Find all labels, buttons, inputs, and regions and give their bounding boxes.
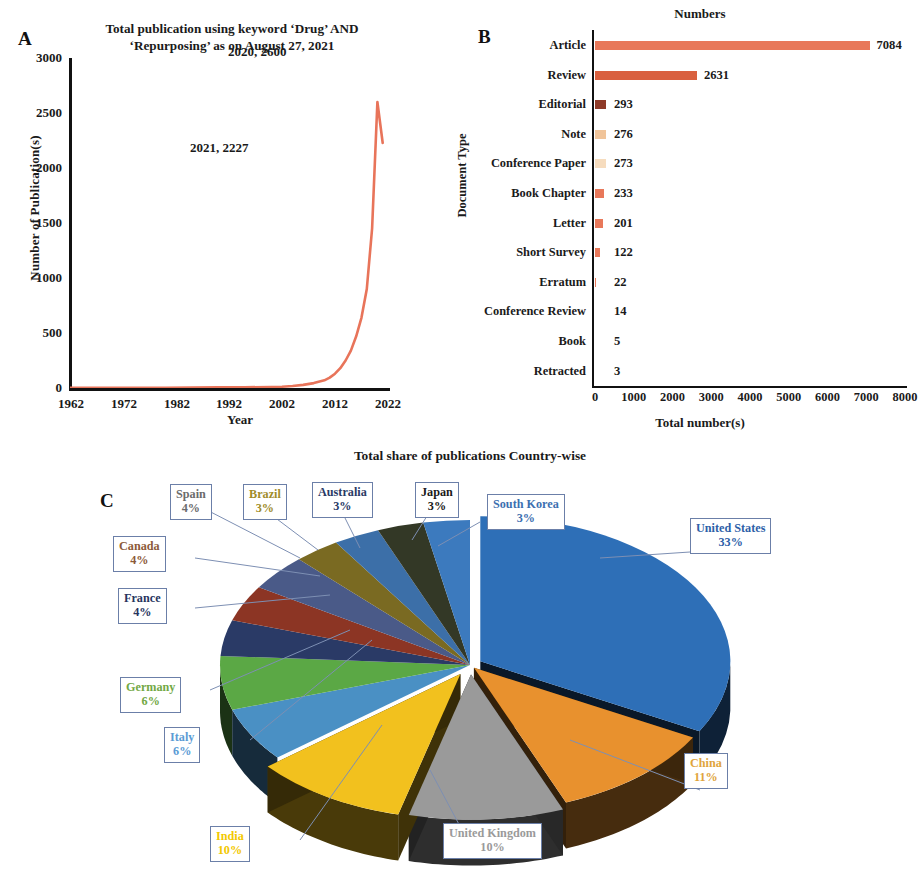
pie-callout-percent: 11% bbox=[690, 770, 722, 784]
panel-b-category-label: Erratum bbox=[440, 269, 586, 295]
panel-a-xtick: 2012 bbox=[307, 396, 363, 412]
panel-b-title: Numbers bbox=[580, 6, 820, 22]
panel-b-bar bbox=[595, 100, 606, 109]
panel-b-bar-row: Note276 bbox=[440, 121, 919, 147]
panel-a-annotation-last: 2021, 2227 bbox=[190, 140, 249, 156]
pie-callout-percent: 3% bbox=[249, 501, 281, 515]
panel-b-category-label: Short Survey bbox=[440, 239, 586, 265]
panel-b-bar bbox=[595, 219, 603, 228]
pie-callout-japan: Japan3% bbox=[415, 482, 459, 518]
panel-b-xtick: 3000 bbox=[689, 390, 733, 405]
pie-callout-percent: 6% bbox=[170, 744, 194, 758]
panel-b-bar-row: Review2631 bbox=[440, 62, 919, 88]
panel-a-xtick: 1992 bbox=[201, 396, 257, 412]
panel-b-category-label: Review bbox=[440, 62, 586, 88]
panel-b-value-label: 122 bbox=[614, 239, 633, 265]
panel-a: A Total publication using keyword ‘Drug’… bbox=[0, 0, 455, 440]
panel-a-x-axis bbox=[69, 388, 390, 391]
panel-b-category-label: Conference Review bbox=[440, 298, 586, 324]
pie-callout-percent: 3% bbox=[493, 511, 559, 525]
panel-b-category-label: Book bbox=[440, 328, 586, 354]
panel-b-value-label: 14 bbox=[614, 298, 627, 324]
panel-a-ytick: 0 bbox=[16, 380, 62, 396]
pie-callout-italy: Italy6% bbox=[164, 727, 200, 763]
pie-3d bbox=[180, 480, 760, 878]
panel-b-value-label: 5 bbox=[614, 328, 620, 354]
panel-b-value-label: 201 bbox=[614, 210, 633, 236]
panel-b-bar-row: Article7084 bbox=[440, 32, 919, 58]
panel-a-xtick: 1972 bbox=[96, 396, 152, 412]
panel-b-bar-row: Editorial293 bbox=[440, 91, 919, 117]
pie-callout-percent: 10% bbox=[449, 840, 536, 854]
panel-b-category-label: Conference Paper bbox=[440, 150, 586, 176]
pie-callout-label: Italy bbox=[170, 730, 194, 744]
pie-callout-label: United Kingdom bbox=[449, 826, 536, 840]
panel-b-value-label: 233 bbox=[614, 180, 633, 206]
panel-b-bar bbox=[595, 71, 697, 80]
pie-callout-label: Japan bbox=[421, 485, 453, 499]
panel-b-value-label: 2631 bbox=[704, 62, 729, 88]
panel-b-bar-row: Retracted3 bbox=[440, 358, 919, 384]
panel-b-bar bbox=[595, 41, 870, 50]
panel-c: C Total share of publications Country-wi… bbox=[0, 440, 919, 878]
figure-root: A Total publication using keyword ‘Drug’… bbox=[0, 0, 919, 878]
pie-callout-label: South Korea bbox=[493, 497, 559, 511]
panel-c-letter: C bbox=[100, 490, 114, 512]
pie-callout-united-kingdom: United Kingdom10% bbox=[443, 823, 542, 859]
panel-b-bar-row: Book Chapter233 bbox=[440, 180, 919, 206]
panel-a-annotation-peak: 2020, 2600 bbox=[228, 44, 287, 60]
pie-callout-south-korea: South Korea3% bbox=[487, 494, 565, 530]
panel-b-value-label: 7084 bbox=[877, 32, 902, 58]
panel-b-bar bbox=[595, 130, 606, 139]
panel-b-x-axis-label: Total number(s) bbox=[570, 415, 830, 431]
panel-b-bar-row: Erratum22 bbox=[440, 269, 919, 295]
pie-callout-brazil: Brazil3% bbox=[243, 484, 287, 520]
panel-b-category-label: Letter bbox=[440, 210, 586, 236]
panel-b-value-label: 293 bbox=[614, 91, 633, 117]
panel-b-category-label: Book Chapter bbox=[440, 180, 586, 206]
pie-callout-label: India bbox=[216, 829, 244, 843]
panel-b-value-label: 276 bbox=[614, 121, 633, 147]
panel-a-ytick: 1500 bbox=[16, 215, 62, 231]
panel-b-category-label: Editorial bbox=[440, 91, 586, 117]
panel-a-line-chart bbox=[70, 58, 388, 388]
pie-callout-percent: 4% bbox=[119, 553, 160, 567]
panel-b-bar bbox=[595, 189, 604, 198]
panel-b-category-label: Article bbox=[440, 32, 586, 58]
panel-a-ytick: 3000 bbox=[16, 50, 62, 66]
pie-callout-united-states: United States33% bbox=[690, 518, 771, 554]
pie-callout-china: China11% bbox=[684, 753, 728, 789]
panel-a-letter: A bbox=[18, 28, 32, 50]
pie-callout-percent: 3% bbox=[421, 499, 453, 513]
panel-b-bar-row: Short Survey122 bbox=[440, 239, 919, 265]
panel-a-ytick: 1000 bbox=[16, 270, 62, 286]
panel-b-xtick: 0 bbox=[573, 390, 617, 405]
panel-b-xtick: 6000 bbox=[806, 390, 850, 405]
pie-callout-percent: 4% bbox=[176, 501, 206, 515]
pie-callout-label: Brazil bbox=[249, 487, 281, 501]
pie-callout-percent: 33% bbox=[696, 535, 765, 549]
panel-a-ytick: 2500 bbox=[16, 105, 62, 121]
panel-b-value-label: 22 bbox=[614, 269, 627, 295]
panel-a-xtick: 1962 bbox=[43, 396, 99, 412]
panel-c-pie-chart bbox=[180, 480, 760, 878]
pie-callout-percent: 6% bbox=[126, 694, 175, 708]
panel-a-xtick: 1982 bbox=[149, 396, 205, 412]
pie-callout-percent: 10% bbox=[216, 843, 244, 857]
panel-b-xtick: 1000 bbox=[612, 390, 656, 405]
panel-a-ytick: 500 bbox=[16, 325, 62, 341]
pie-callout-label: United States bbox=[696, 521, 765, 535]
pie-callout-canada: Canada4% bbox=[113, 536, 166, 572]
panel-b-bar-row: Conference Review14 bbox=[440, 298, 919, 324]
pie-callout-australia: Australia3% bbox=[312, 482, 373, 518]
panel-b-xtick: 7000 bbox=[844, 390, 888, 405]
pie-callout-label: Australia bbox=[318, 485, 367, 499]
pie-callout-label: Germany bbox=[126, 680, 175, 694]
panel-b-value-label: 3 bbox=[614, 358, 620, 384]
panel-a-title-line1: Total publication using keyword ‘Drug’ A… bbox=[105, 21, 358, 36]
panel-b-bar-row: Letter201 bbox=[440, 210, 919, 236]
panel-b-bar-row: Book5 bbox=[440, 328, 919, 354]
pie-callout-label: Canada bbox=[119, 539, 160, 553]
panel-a-x-axis-label: Year bbox=[90, 412, 390, 428]
panel-a-xtick: 2002 bbox=[254, 396, 310, 412]
